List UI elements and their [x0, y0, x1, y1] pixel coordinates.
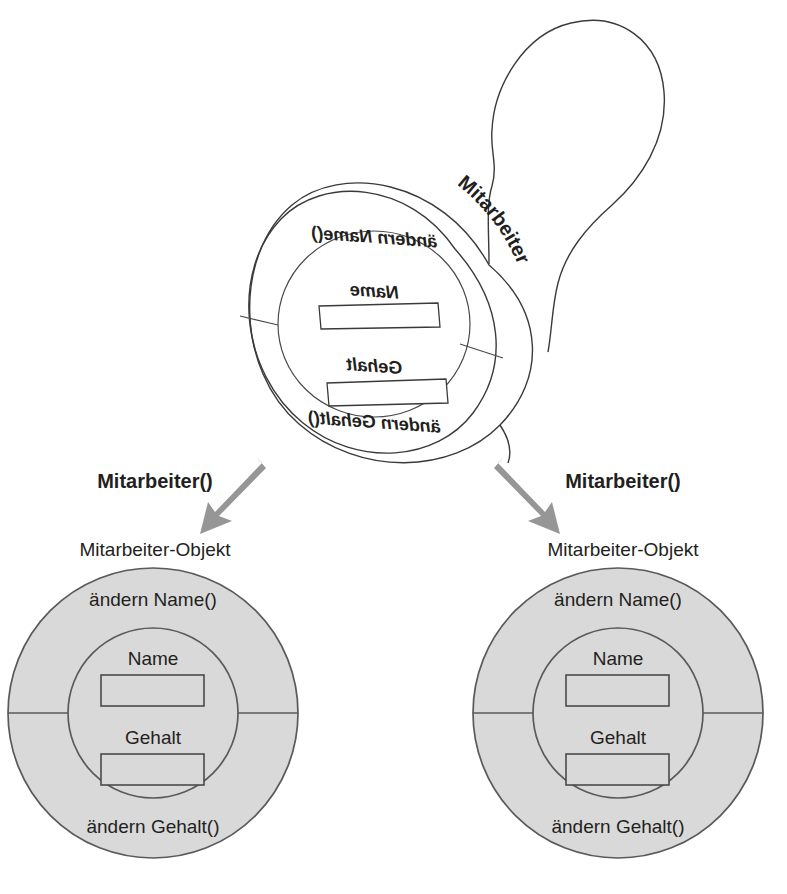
stamp-field-gehalt-slot [327, 379, 448, 406]
constructor-label-right: Mitarbeiter() [565, 470, 681, 492]
stamp-field-name-slot [319, 303, 440, 329]
object-field-name-label-left: Name [128, 648, 179, 669]
stamp-divider-left [240, 316, 278, 325]
stamp-method-top: ändern Name() [311, 223, 438, 252]
diagram-canvas: ändern Name() Name Gehalt ändern Gehalt(… [0, 0, 787, 894]
stamp-method-bottom: ändern Gehalt() [307, 407, 441, 436]
stamp-field-gehalt-label: Gehalt [345, 354, 403, 378]
object-method-top-right: ändern Name() [554, 589, 682, 610]
object-field-name-label-right: Name [593, 648, 644, 669]
object-field-gehalt-box-left[interactable] [101, 754, 204, 785]
mitarbeiter-objekt-left: ändern Name() Name Gehalt ändern Gehalt(… [8, 568, 298, 858]
object-field-gehalt-label-left: Gehalt [125, 727, 182, 748]
arrow-left [200, 457, 266, 534]
object-caption-left: Mitarbeiter-Objekt [80, 539, 232, 560]
object-method-bottom-right: ändern Gehalt() [551, 816, 684, 837]
stamp-handle-icon [488, 20, 664, 352]
object-method-top-left: ändern Name() [89, 589, 217, 610]
constructor-label-left: Mitarbeiter() [97, 470, 213, 492]
arrow-right [494, 457, 560, 534]
stamp-mitarbeiter: ändern Name() Name Gehalt ändern Gehalt(… [240, 20, 664, 463]
stamp-rim-tail [500, 425, 510, 463]
stamp-field-name-label: Name [349, 279, 399, 302]
object-caption-right: Mitarbeiter-Objekt [548, 539, 700, 560]
object-field-gehalt-box-right[interactable] [566, 754, 669, 785]
mitarbeiter-objekt-right: ändern Name() Name Gehalt ändern Gehalt(… [473, 568, 763, 858]
object-field-name-box-left[interactable] [101, 675, 204, 706]
object-field-gehalt-label-right: Gehalt [590, 727, 647, 748]
object-method-bottom-left: ändern Gehalt() [86, 816, 219, 837]
stamp-side-label: Mitarbeiter [454, 171, 534, 267]
object-field-name-box-right[interactable] [566, 675, 669, 706]
